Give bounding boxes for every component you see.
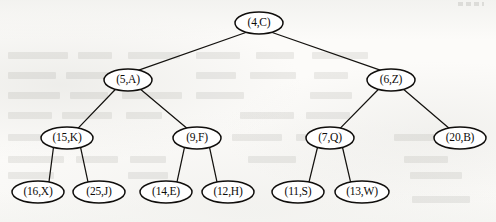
tree-node[interactable]: (9,F)	[173, 127, 221, 149]
tree-edge-layer	[49, 32, 449, 182]
node-label: (4,C)	[248, 16, 271, 29]
tree-node[interactable]: (6,Z)	[367, 69, 415, 91]
tree-node[interactable]: (12,H)	[202, 181, 254, 203]
node-label: (7,Q)	[318, 131, 342, 144]
scanned-page-figure: (4,C)(5,A)(6,Z)(15,K)(9,F)(7,Q)(20,B)(16…	[0, 0, 496, 222]
tree-node[interactable]: (13,W)	[335, 181, 389, 203]
tree-edge	[271, 32, 380, 70]
node-label: (11,S)	[285, 185, 312, 198]
node-label: (16,X)	[23, 185, 53, 198]
node-label: (9,F)	[186, 131, 208, 144]
tree-node[interactable]: (11,S)	[272, 181, 324, 203]
tree-node-layer: (4,C)(5,A)(6,Z)(15,K)(9,F)(7,Q)(20,B)(16…	[12, 12, 486, 203]
tree-edge	[309, 147, 318, 182]
tree-node[interactable]: (4,C)	[235, 12, 283, 34]
node-label: (15,K)	[52, 131, 82, 144]
node-label: (13,W)	[346, 185, 378, 198]
node-label: (25,J)	[86, 185, 112, 198]
tree-node[interactable]: (25,J)	[73, 181, 125, 203]
node-label: (14,E)	[152, 185, 180, 198]
node-label: (5,A)	[116, 73, 140, 86]
tree-edge	[138, 32, 246, 70]
node-label: (6,Z)	[380, 73, 403, 86]
node-label: (20,B)	[446, 131, 475, 144]
tree-edge	[209, 147, 217, 182]
tree-edge	[140, 89, 186, 128]
tree-node[interactable]: (20,B)	[434, 127, 486, 149]
tree-edge	[81, 147, 89, 182]
tree-edge	[78, 89, 116, 128]
tree-edge	[342, 147, 350, 182]
tree-node[interactable]: (16,X)	[12, 181, 64, 203]
tree-node[interactable]: (7,Q)	[306, 127, 354, 149]
tree-edge	[340, 89, 378, 128]
tree-edge	[177, 147, 185, 182]
binary-tree-diagram: (4,C)(5,A)(6,Z)(15,K)(9,F)(7,Q)(20,B)(16…	[0, 0, 496, 222]
tree-node[interactable]: (15,K)	[41, 127, 93, 149]
tree-node[interactable]: (5,A)	[104, 69, 152, 91]
tree-edge	[403, 89, 449, 128]
node-label: (12,H)	[213, 185, 243, 198]
tree-edge	[49, 147, 54, 182]
tree-node[interactable]: (14,E)	[140, 181, 192, 203]
